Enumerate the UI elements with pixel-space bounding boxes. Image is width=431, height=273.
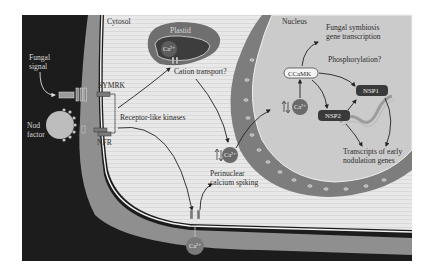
symrk-ectodomain [76,88,87,101]
external-ca-label: Ca²⁺ [189,242,201,249]
transcripts-label-2: nodulation genes [343,156,395,165]
signaling-diagram: Ca²⁺ Plastid Cytosol Nucleus Fungal sign… [0,0,431,273]
perinuclear-spiking-label-2: calcium spiking [210,178,258,187]
plastid-label: Plastid [170,26,191,35]
nfr-ectodomain [82,126,85,133]
transcripts-label: Transcripts of early [343,147,402,156]
symrk-label: SYMRK [98,81,126,90]
cation-transport-label: Cation transport? [174,67,227,76]
nfr-kinase-2 [98,132,111,136]
plastid-ca-label: Ca²⁺ [163,45,175,52]
symrk-kinase [97,92,110,97]
nod-factor-label-2: factor [27,130,45,139]
ccamk-label: CCaMK [288,70,311,77]
fungal-signal-label: Fungal [29,53,50,62]
nfr-label: NFR [97,138,113,147]
receptor-kinases-label: Receptor-like kinases [120,113,185,122]
fungal-symbiosis-label: Fungal symbiosis [326,23,379,32]
fungal-signal-label-2: signal [29,62,47,71]
perinuclear-ca-label: Ca²⁺ [224,151,236,158]
nuclear-ca-label: Ca²⁺ [294,103,306,110]
nfr-kinase-1 [94,128,107,132]
perinuclear-spiking-label: Perinuclear [210,169,245,178]
cytosol-label: Cytosol [107,17,131,26]
nsp2-label: NSP2 [325,112,341,119]
nsp1-label: NSP1 [363,87,379,94]
nucleus-label: Nucleus [282,17,307,26]
phosphorylation-label: Phosphorylation? [328,55,382,64]
nod-factor-label: Nod [27,121,40,130]
fungal-symbiosis-label-2: gene transcription [326,32,381,41]
fungal-signal-ligand [59,92,74,98]
